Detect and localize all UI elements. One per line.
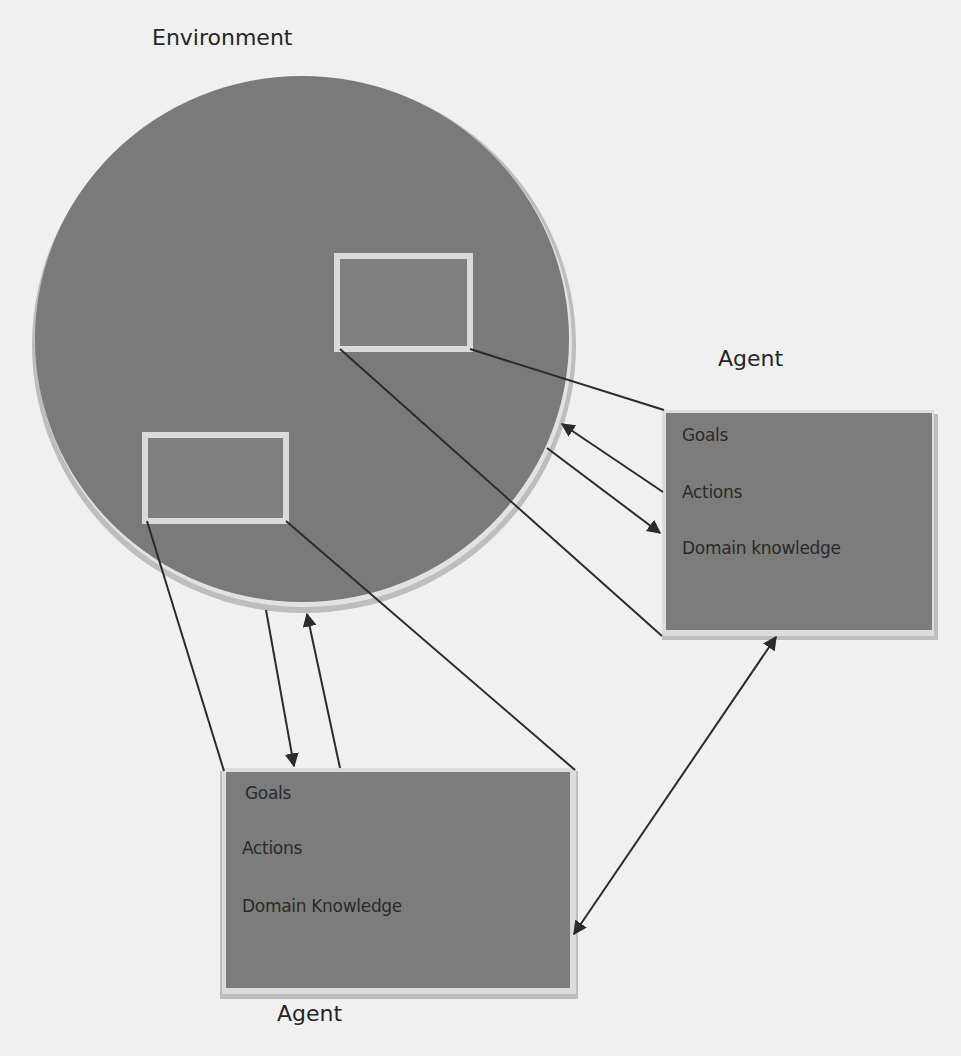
- diagram-graphics: [0, 0, 961, 1056]
- env-slot-lower-left: [145, 435, 286, 521]
- arrow-agent-to-env: [307, 614, 340, 768]
- arrow-env-to-agent: [266, 610, 294, 766]
- agent-bottom-label: Agent: [277, 1001, 342, 1026]
- environment-label: Environment: [152, 25, 292, 50]
- agent-bottom-goals: Goals: [245, 783, 291, 803]
- agent-bottom-actions: Actions: [242, 838, 302, 858]
- arrow-agent-to-env: [562, 424, 663, 492]
- diagram-canvas: Environment Agent Goals Actions Domain k…: [0, 0, 961, 1056]
- environment-circle: [32, 76, 576, 613]
- agent-right-actions: Actions: [682, 482, 742, 502]
- agent-right-domain-knowledge: Domain knowledge: [682, 538, 841, 558]
- agent-bottom-domain-knowledge: Domain Knowledge: [242, 896, 402, 916]
- agent-right-goals: Goals: [682, 425, 728, 445]
- arrow-env-to-agent: [547, 448, 660, 533]
- agent-right-label: Agent: [718, 346, 783, 371]
- arrow-agent-to-agent: [574, 637, 776, 934]
- env-slot-upper-right: [337, 256, 470, 349]
